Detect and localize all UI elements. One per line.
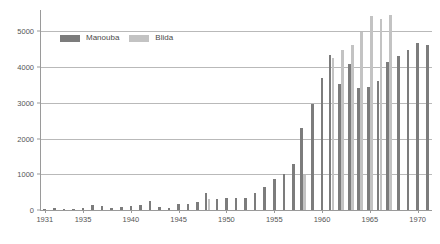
y-tick-label-0: 0 [0, 206, 34, 215]
x-tick-mark-1960 [322, 210, 323, 213]
bar-manouba-1956 [283, 174, 286, 210]
bar-blida-1958 [303, 175, 306, 210]
x-tick-mark-1935 [83, 210, 84, 213]
bar-manouba-1957 [292, 164, 295, 210]
legend-label-blida: Blida [155, 34, 173, 42]
x-tick-label-1950: 1950 [218, 215, 235, 224]
x-tick-mark-1945 [179, 210, 180, 213]
bar-manouba-1969 [407, 50, 410, 210]
x-tick-mark-1931 [45, 210, 46, 213]
legend-item-blida: Blida [129, 34, 173, 42]
y-tick-label-1000: 1000 [0, 170, 34, 179]
x-tick-label-1970: 1970 [409, 215, 426, 224]
legend-item-manouba: Manouba [60, 34, 119, 42]
blida-swatch-icon [129, 35, 149, 42]
y-tick-label-4000: 4000 [0, 63, 34, 72]
bar-manouba-1942 [149, 201, 152, 210]
bar-manouba-1970 [416, 43, 419, 211]
x-tick-label-1960: 1960 [314, 215, 331, 224]
y-tick-label-2000: 2000 [0, 134, 34, 143]
y-tick-label-3000: 3000 [0, 98, 34, 107]
bar-manouba-1953 [254, 193, 257, 210]
bar-manouba-1954 [263, 187, 266, 210]
bar-manouba-1960 [321, 78, 324, 211]
bar-blida-1963 [351, 45, 354, 210]
bar-blida-1966 [380, 19, 383, 210]
bar-manouba-1951 [235, 198, 238, 210]
x-tick-label-1965: 1965 [362, 215, 379, 224]
bar-manouba-1950 [225, 198, 228, 210]
chart-legend: Manouba Blida [60, 34, 173, 42]
legend-label-manouba: Manouba [86, 34, 119, 42]
bar-manouba-1968 [397, 56, 400, 210]
bar-chart: 010002000300040005000 193119351940194519… [0, 0, 440, 244]
x-tick-label-1935: 1935 [75, 215, 92, 224]
x-tick-label-1945: 1945 [170, 215, 187, 224]
bar-manouba-1952 [244, 198, 247, 210]
bar-blida-1964 [360, 32, 363, 210]
bar-blida-1948 [208, 199, 211, 210]
bar-blida-1965 [370, 16, 373, 210]
x-tick-label-1940: 1940 [122, 215, 139, 224]
bar-manouba-1971 [426, 45, 429, 210]
x-tick-label-1955: 1955 [266, 215, 283, 224]
x-tick-mark-1950 [226, 210, 227, 213]
x-tick-mark-1965 [370, 210, 371, 213]
bar-manouba-1959 [311, 104, 314, 210]
manouba-swatch-icon [60, 35, 80, 42]
bar-blida-1962 [341, 50, 344, 210]
x-tick-label-1931: 1931 [36, 215, 53, 224]
bar-manouba-1955 [273, 179, 276, 210]
bar-manouba-1947 [196, 202, 199, 210]
bar-blida-1961 [332, 58, 335, 210]
x-tick-mark-1955 [274, 210, 275, 213]
bar-blida-1967 [389, 15, 392, 210]
y-tick-label-5000: 5000 [0, 27, 34, 36]
x-axis-labels: 193119351940194519501955196019651970 [40, 210, 432, 244]
x-tick-mark-1970 [418, 210, 419, 213]
bar-manouba-1949 [216, 199, 219, 210]
x-tick-mark-1940 [131, 210, 132, 213]
